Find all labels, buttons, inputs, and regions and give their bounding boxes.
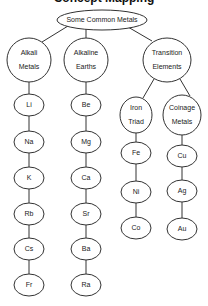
node-ra: Ra	[71, 274, 101, 296]
concept-map: Concept Mapping Some Common Metals	[0, 0, 208, 306]
edge	[143, 79, 154, 98]
node-cs: Cs	[14, 238, 44, 260]
edge-root-alkali	[42, 26, 68, 42]
node-label: Alkali	[21, 49, 38, 56]
node-root: Some Common Metals	[57, 10, 147, 30]
node-label: Iron	[130, 104, 142, 111]
node-label: Co	[132, 224, 141, 231]
edge-root-transition	[128, 27, 152, 41]
node-label: Metals	[172, 118, 193, 125]
node-label: Li	[26, 101, 32, 108]
node-label: Elements	[152, 63, 182, 70]
node-label: Some Common Metals	[66, 16, 138, 23]
node-co: Co	[121, 217, 151, 239]
node-sr: Sr	[71, 203, 101, 225]
node-alkali-metals: Alkali Metals	[7, 38, 51, 82]
node-transition-elements: Transition Elements	[143, 38, 191, 82]
node-label: Rb	[25, 210, 34, 217]
node-label: Coinage	[169, 104, 195, 112]
node-coinage-metals: Coinage Metals	[163, 95, 201, 135]
node-ba: Ba	[71, 238, 101, 260]
node-ag: Ag	[167, 180, 197, 202]
node-label: Cs	[25, 245, 34, 252]
node-label: Be	[82, 101, 91, 108]
node-label: Na	[25, 138, 34, 145]
node-label: Au	[178, 225, 187, 232]
node-li: Li	[14, 94, 44, 116]
node-label: Ra	[82, 281, 91, 288]
node-label: Fr	[26, 281, 33, 288]
node-label: Ca	[82, 174, 91, 181]
node-na: Na	[14, 131, 44, 153]
node-label: Ba	[82, 245, 91, 252]
node-ni: Ni	[121, 181, 151, 203]
node-alkaline-earths: Alkaline Earths	[64, 38, 108, 82]
node-au: Au	[167, 218, 197, 240]
node-rb: Rb	[14, 203, 44, 225]
node-label: Transition	[152, 49, 183, 56]
node-label: Alkaline	[74, 49, 99, 56]
cropped-title: Concept Mapping	[54, 0, 155, 5]
node-label: Metals	[19, 63, 40, 70]
node-iron-triad: Iron Triad	[120, 97, 152, 133]
node-label: Cu	[178, 152, 187, 159]
node-label: Fe	[132, 149, 140, 156]
node-label: K	[27, 174, 32, 181]
node-k: K	[14, 167, 44, 189]
node-fr: Fr	[14, 274, 44, 296]
node-label: Sr	[83, 210, 91, 217]
node-cu: Cu	[167, 145, 197, 167]
node-label: Mg	[81, 138, 91, 146]
node-label: Triad	[128, 118, 144, 125]
node-label: Ag	[178, 187, 187, 195]
node-mg: Mg	[71, 131, 101, 153]
node-fe: Fe	[121, 142, 151, 164]
node-ca: Ca	[71, 167, 101, 189]
node-label: Ni	[133, 188, 140, 195]
node-label: Earths	[76, 63, 97, 70]
node-be: Be	[71, 94, 101, 116]
edge	[180, 79, 190, 96]
